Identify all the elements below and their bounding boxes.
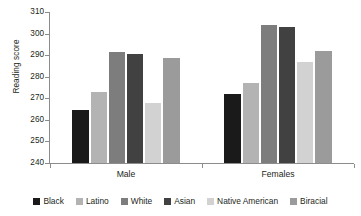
legend-swatch-icon	[121, 198, 128, 205]
x-axis-tick	[50, 164, 51, 168]
x-axis-tick	[354, 164, 355, 168]
bar	[127, 54, 143, 163]
bar	[109, 52, 125, 163]
reading-score-bar-chart: Reading score 240250260270280290300310 M…	[0, 0, 361, 216]
y-axis-tick-labels: 240250260270280290300310	[16, 12, 44, 164]
x-axis-group-label: Females	[202, 169, 354, 179]
legend-item[interactable]: Biracial	[290, 197, 327, 206]
legend-label: Latino	[86, 197, 109, 206]
bar	[315, 51, 331, 163]
bars-layer	[50, 12, 354, 163]
bar	[261, 25, 277, 163]
legend-label: White	[131, 197, 152, 206]
y-axis-tick-label: 310	[16, 8, 44, 16]
y-axis-tick-label: 250	[16, 137, 44, 145]
legend-label: Asian	[174, 197, 195, 206]
bar	[297, 62, 313, 163]
y-axis-tick-label: 290	[16, 51, 44, 59]
x-axis-group-label: Male	[50, 169, 202, 179]
legend-swatch-icon	[290, 198, 297, 205]
legend-item[interactable]: Black	[33, 197, 63, 206]
legend-swatch-icon	[164, 198, 171, 205]
y-axis-tick-label: 260	[16, 116, 44, 124]
legend-swatch-icon	[33, 198, 40, 205]
y-axis-tick-label: 300	[16, 30, 44, 38]
legend-item[interactable]: Native American	[207, 197, 278, 206]
legend: BlackLatinoWhiteAsianNative AmericanBira…	[0, 190, 361, 212]
bar	[279, 27, 295, 163]
y-axis-tick-label: 240	[16, 159, 44, 167]
x-axis-tick	[202, 164, 203, 168]
x-axis-group-labels: MaleFemales	[50, 169, 354, 181]
legend-label: Black	[43, 197, 63, 206]
y-axis-tick-label: 280	[16, 73, 44, 81]
legend-item[interactable]: Asian	[164, 197, 195, 206]
bar	[163, 58, 179, 163]
legend-label: Biracial	[300, 197, 327, 206]
bar	[91, 92, 107, 163]
legend-item[interactable]: White	[121, 197, 152, 206]
y-axis-tick-label: 270	[16, 94, 44, 102]
legend-swatch-icon	[207, 198, 214, 205]
bar	[243, 83, 259, 163]
bar	[145, 103, 161, 163]
plot-area: Reading score 240250260270280290300310 M…	[0, 0, 361, 186]
legend-swatch-icon	[76, 198, 83, 205]
legend-item[interactable]: Latino	[76, 197, 109, 206]
legend-label: Native American	[217, 197, 278, 206]
bar	[224, 94, 240, 163]
bar	[72, 110, 88, 163]
